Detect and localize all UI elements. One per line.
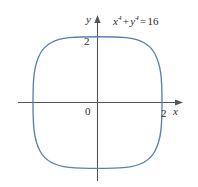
y-axis-label: y [86,14,91,25]
axis-lines [18,18,180,181]
equation-right-side: 16 [147,15,158,27]
curve-equation-label: x4+y4=16 [113,16,159,27]
equation-plus-operator: + [122,15,130,27]
plot-canvas [0,0,198,187]
math-figure-plot: y x 2 2 0 x4+y4=16 [0,0,198,187]
axis-arrowheads [94,15,183,106]
x-axis-label: x [173,106,178,117]
origin-label: 0 [85,106,91,117]
y-axis-tick-label-2: 2 [84,36,90,47]
x-axis-tick-label-2: 2 [161,108,167,119]
y-axis-arrow-icon [94,15,100,23]
